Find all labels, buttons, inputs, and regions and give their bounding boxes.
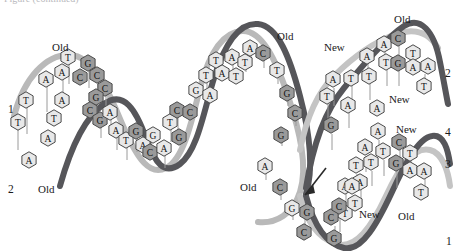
base-letter: A xyxy=(219,69,226,79)
base-letter: T xyxy=(51,114,57,124)
base-letter: C xyxy=(301,228,307,238)
base-letter: T xyxy=(380,147,386,157)
label-old-top-middle: Old xyxy=(277,31,294,42)
base-letter: C xyxy=(174,106,180,116)
base-letter: G xyxy=(85,59,92,69)
label-old-bottom-left: Old xyxy=(38,184,55,195)
base-t: T xyxy=(362,68,376,84)
base-t: T xyxy=(403,145,417,161)
base-letter: G xyxy=(393,159,400,169)
base-letter: T xyxy=(383,58,389,68)
base-c: C xyxy=(170,102,184,118)
base-letter: C xyxy=(336,202,342,212)
base-letter: A xyxy=(330,75,337,85)
base-c: C xyxy=(332,198,346,214)
base-letter: T xyxy=(368,158,374,168)
label-strand-1-left: 1 xyxy=(8,104,14,116)
label-new-bottom-mid: New xyxy=(359,209,380,220)
base-letter: T xyxy=(407,149,413,159)
base-a: A xyxy=(371,123,385,139)
base-a: A xyxy=(403,162,417,178)
base-a: A xyxy=(360,48,374,64)
base-letter: A xyxy=(45,134,52,144)
base-letter: T xyxy=(418,188,424,198)
base-letter: A xyxy=(349,182,356,192)
base-g: G xyxy=(327,230,341,246)
base-letter: C xyxy=(187,108,193,118)
base-letter: A xyxy=(410,63,417,73)
label-strand-2-left: 2 xyxy=(8,184,14,196)
base-a: A xyxy=(203,87,217,103)
base-letter: C xyxy=(395,34,401,44)
label-old-top-left: Old xyxy=(52,42,69,53)
base-letter: T xyxy=(15,118,21,128)
base-letter: T xyxy=(23,96,29,106)
base-letter: G xyxy=(284,89,291,99)
base-a: A xyxy=(55,92,69,108)
base-letter: T xyxy=(410,49,416,59)
base-letter: A xyxy=(262,162,269,172)
label-old-top-right: Old xyxy=(394,14,411,25)
base-letter: C xyxy=(77,73,83,83)
base-letter: T xyxy=(421,82,427,92)
base-letter: A xyxy=(59,68,66,78)
base-letter: G xyxy=(97,116,104,126)
base-letter: C xyxy=(328,213,334,223)
base-a: A xyxy=(225,49,239,65)
base-letter: A xyxy=(381,40,388,50)
base-a: A xyxy=(421,58,435,74)
base-letter: G xyxy=(395,59,402,69)
base-letter: C xyxy=(94,71,100,81)
base-letter: A xyxy=(107,108,114,118)
base-letter: T xyxy=(324,92,330,102)
base-t: T xyxy=(414,184,428,200)
base-letter: A xyxy=(43,75,50,85)
base-letter: A xyxy=(364,52,371,62)
label-new-lower-right: New xyxy=(396,124,417,135)
base-letter: C xyxy=(102,84,108,94)
base-c: C xyxy=(391,30,405,46)
base-letter: A xyxy=(59,96,66,106)
base-letter: T xyxy=(353,161,359,171)
base-g: G xyxy=(172,129,186,145)
base-c: C xyxy=(256,45,270,61)
base-g: G xyxy=(129,123,143,139)
base-a: A xyxy=(370,100,384,116)
base-c: C xyxy=(297,224,311,240)
base-a: A xyxy=(258,158,272,174)
base-g: G xyxy=(146,127,160,143)
base-letter: G xyxy=(93,93,100,103)
base-letter: C xyxy=(260,49,266,59)
base-letter: G xyxy=(328,121,335,131)
base-letter: G xyxy=(331,234,338,244)
base-letter: C xyxy=(292,109,298,119)
base-a: A xyxy=(55,64,69,80)
base-t: T xyxy=(199,67,213,83)
base-letter: C xyxy=(277,183,283,193)
label-old-bottom-right: Old xyxy=(398,211,415,222)
base-a: A xyxy=(243,40,257,56)
base-a: A xyxy=(326,71,340,87)
base-letter: G xyxy=(304,208,311,218)
base-a: A xyxy=(103,104,117,120)
base-a: A xyxy=(345,178,359,194)
base-letter: T xyxy=(352,199,358,209)
base-t: T xyxy=(209,52,223,68)
base-a: A xyxy=(39,71,53,87)
base-letter: G xyxy=(193,86,200,96)
base-t: T xyxy=(349,157,363,173)
base-a: A xyxy=(377,36,391,52)
base-a: A xyxy=(22,152,36,168)
base-c: C xyxy=(143,144,157,160)
base-t: T xyxy=(47,110,61,126)
base-letter: T xyxy=(274,66,280,76)
base-letter: A xyxy=(113,126,120,136)
base-letter: G xyxy=(278,131,285,141)
base-letter: A xyxy=(247,44,254,54)
base-c: C xyxy=(183,104,197,120)
base-g: G xyxy=(389,155,403,171)
base-letter: G xyxy=(176,133,183,143)
base-letter: G xyxy=(289,204,296,214)
base-a: A xyxy=(358,139,372,155)
base-a: A xyxy=(417,163,431,179)
